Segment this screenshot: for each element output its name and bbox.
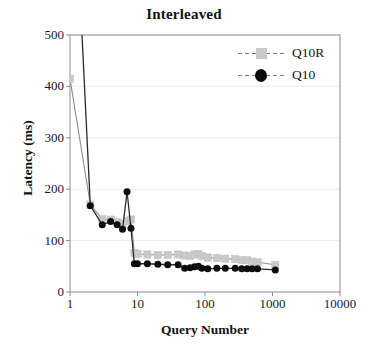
plot-area (0, 0, 368, 351)
x-tick-marks (70, 292, 340, 296)
square-marker-icon (256, 48, 267, 59)
series-q10 (70, 0, 279, 273)
series-q10r (66, 75, 278, 268)
circle-marker-icon (255, 69, 267, 82)
chart-figure: Interleaved Latency (ms) Query Number 50… (0, 0, 368, 351)
y-tick-marks (66, 35, 70, 292)
grid-lines (70, 35, 340, 241)
